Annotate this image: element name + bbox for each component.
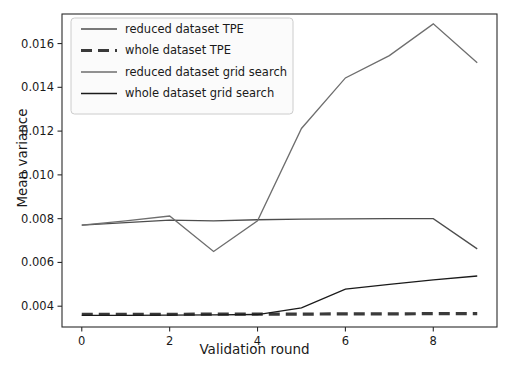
y-axis-label: Mean variance — [14, 88, 30, 228]
figure-canvas: 024680.0040.0060.0080.0100.0120.0140.016… — [0, 0, 509, 365]
line-chart: 024680.0040.0060.0080.0100.0120.0140.016… — [0, 0, 509, 365]
legend-label: whole dataset TPE — [125, 43, 231, 57]
legend-label: reduced dataset TPE — [125, 22, 244, 36]
chart-legend: reduced dataset TPEwhole dataset TPEredu… — [71, 18, 293, 114]
y-tick-label: 0.016 — [21, 37, 54, 51]
y-tick-label: 0.006 — [21, 255, 54, 269]
series-line — [82, 276, 477, 315]
legend-label: reduced dataset grid search — [125, 65, 287, 79]
series-line — [82, 314, 477, 315]
legend-label: whole dataset grid search — [125, 86, 274, 100]
series-line — [82, 219, 477, 249]
x-axis-label: Validation round — [0, 341, 509, 357]
y-tick-label: 0.004 — [21, 299, 54, 313]
